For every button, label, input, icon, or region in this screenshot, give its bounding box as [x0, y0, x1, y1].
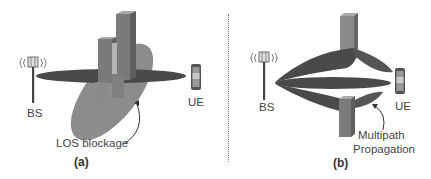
base-station-icon — [251, 52, 277, 100]
user-equipment-icon — [191, 64, 201, 90]
base-station-icon — [20, 57, 46, 103]
user-equipment-icon — [395, 68, 405, 94]
los-blockage-label: LOS blockage — [56, 137, 128, 150]
bs-label: BS — [259, 101, 274, 114]
upper-second-hop-lobe — [353, 48, 393, 72]
lower-second-hop-lobe — [351, 92, 383, 108]
bs-label: BS — [27, 107, 42, 120]
ue-label: UE — [395, 100, 411, 113]
lower-building — [339, 96, 355, 137]
annotation-arrow — [375, 106, 384, 130]
ue-label: UE — [188, 96, 204, 109]
multipath-label-line1: Multipath — [358, 129, 405, 142]
panel-b-caption: (b) — [333, 156, 348, 170]
panel-a-caption: (a) — [74, 155, 89, 169]
panel-b-multipath: BS UE Multipath Propagation (b) — [215, 0, 431, 179]
panel-a-diagram — [0, 0, 215, 179]
multipath-label-line2: Propagation — [353, 143, 415, 156]
upper-reflected-beam-lobe — [275, 48, 356, 82]
direct-beam-lobe — [275, 77, 391, 89]
panel-a-los-blockage: BS UE LOS blockage (a) — [0, 0, 215, 179]
